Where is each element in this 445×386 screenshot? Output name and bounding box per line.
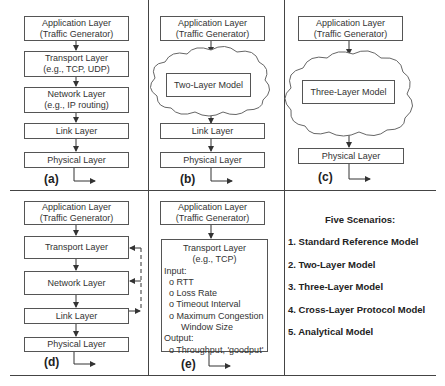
a-physical-layer: Physical Layer bbox=[24, 152, 129, 168]
panel-label-e: (e) bbox=[181, 357, 196, 371]
panel-label-d: (d) bbox=[44, 355, 59, 369]
b-app-subtitle: (Traffic Generator) bbox=[176, 29, 250, 40]
e-transport-title: Transport Layer bbox=[162, 243, 267, 254]
a-transport-title: Transport Layer bbox=[45, 53, 108, 64]
a-application-layer: Application Layer (Traffic Generator) bbox=[24, 16, 129, 41]
panel-label-b: (b) bbox=[180, 172, 195, 186]
scenario-item: 5. Analytical Model bbox=[288, 326, 373, 337]
a-transport-subtitle: (e.g., TCP, UDP) bbox=[43, 64, 110, 75]
c-model-text: Three-Layer Model bbox=[310, 87, 386, 98]
scenario-item: 3. Three-Layer Model bbox=[288, 281, 383, 292]
c-physical-text: Physical Layer bbox=[322, 151, 381, 162]
e-output-label: Output: bbox=[162, 333, 267, 344]
c-physical-layer: Physical Layer bbox=[298, 148, 404, 164]
b-link-layer: Link Layer bbox=[160, 123, 265, 139]
a-transport-layer: Transport Layer (e.g., TCP, UDP) bbox=[24, 51, 129, 77]
e-input-label: Input: bbox=[162, 266, 267, 277]
e-input-item: Window Size bbox=[162, 322, 267, 333]
e-input-item: o Timeout Interval bbox=[162, 299, 267, 310]
d-transport-text: Transport Layer bbox=[45, 242, 108, 253]
b-model-text: Two-Layer Model bbox=[174, 80, 243, 91]
d-application-layer: Application Layer (Traffic Generator) bbox=[24, 201, 129, 225]
a-link-text: Link Layer bbox=[56, 126, 98, 137]
b-two-layer-model: Two-Layer Model bbox=[166, 73, 251, 97]
scenario-item: 4. Cross-Layer Protocol Model bbox=[288, 304, 425, 315]
d-physical-layer: Physical Layer bbox=[24, 337, 129, 352]
e-input-item: o Maximum Congestion bbox=[162, 311, 267, 322]
b-physical-layer: Physical Layer bbox=[160, 152, 265, 168]
a-physical-text: Physical Layer bbox=[47, 155, 106, 166]
panel-label-a: (a) bbox=[44, 172, 59, 186]
d-transport-layer: Transport Layer bbox=[24, 236, 129, 259]
d-link-text: Link Layer bbox=[56, 311, 98, 322]
b-link-text: Link Layer bbox=[192, 126, 234, 137]
c-three-layer-model: Three-Layer Model bbox=[302, 80, 395, 104]
b-application-layer: Application Layer (Traffic Generator) bbox=[160, 16, 265, 41]
b-app-title: Application Layer bbox=[178, 18, 247, 29]
e-app-subtitle: (Traffic Generator) bbox=[176, 213, 250, 224]
scenario-item: 2. Two-Layer Model bbox=[288, 259, 375, 270]
c-app-title: Application Layer bbox=[316, 18, 385, 29]
d-network-layer: Network Layer bbox=[24, 271, 129, 295]
a-network-layer: Network Layer (e.g., IP routing) bbox=[24, 87, 129, 113]
e-output-item: o Throughput, 'goodput' bbox=[162, 345, 267, 356]
c-app-subtitle: (Traffic Generator) bbox=[314, 29, 388, 40]
e-app-title: Application Layer bbox=[178, 202, 247, 213]
e-input-item: o Loss Rate bbox=[162, 288, 267, 299]
d-app-subtitle: (Traffic Generator) bbox=[40, 213, 114, 224]
scenarios-title: Five Scenarios: bbox=[325, 214, 395, 225]
d-network-text: Network Layer bbox=[47, 278, 105, 289]
panel-label-c: (c) bbox=[318, 170, 333, 184]
a-app-title: Application Layer bbox=[42, 18, 111, 29]
e-transport-subtitle: (e.g., TCP) bbox=[162, 254, 267, 265]
scenario-item: 1. Standard Reference Model bbox=[288, 236, 418, 247]
e-input-item: o RTT bbox=[162, 277, 267, 288]
a-network-title: Network Layer bbox=[47, 89, 105, 100]
e-application-layer: Application Layer (Traffic Generator) bbox=[160, 201, 265, 225]
c-application-layer: Application Layer (Traffic Generator) bbox=[298, 16, 403, 41]
a-link-layer: Link Layer bbox=[24, 123, 129, 139]
a-network-subtitle: (e.g., IP routing) bbox=[44, 100, 108, 111]
d-app-title: Application Layer bbox=[42, 202, 111, 213]
e-transport-analytical-box: Transport Layer (e.g., TCP) Input: o RTT… bbox=[161, 239, 268, 352]
d-link-layer: Link Layer bbox=[24, 308, 129, 324]
b-physical-text: Physical Layer bbox=[183, 155, 242, 166]
d-physical-text: Physical Layer bbox=[47, 339, 106, 350]
a-app-subtitle: (Traffic Generator) bbox=[40, 29, 114, 40]
